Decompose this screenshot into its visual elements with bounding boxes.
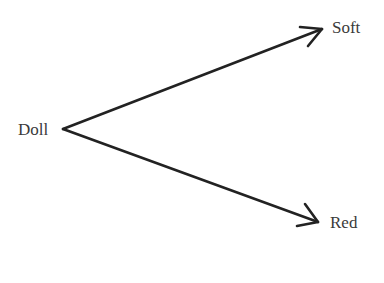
diagram-canvas: Doll Soft Red xyxy=(0,0,384,283)
arrow-to-soft-icon xyxy=(63,27,322,129)
arrow-to-red-icon xyxy=(63,129,318,226)
target-node-red-label: Red xyxy=(330,214,357,231)
source-node-label: Doll xyxy=(18,121,48,138)
target-node-soft-label: Soft xyxy=(332,19,360,36)
arrow-connectors xyxy=(0,0,384,283)
